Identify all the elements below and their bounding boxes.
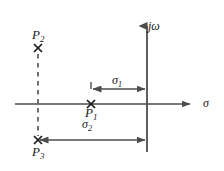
real-axis-label-text: σ: [203, 96, 209, 110]
s-plane-pole-diagram: jω σ P2 P1 P3 σ1 σ2: [0, 0, 224, 171]
sigma2-label: σ2: [82, 118, 92, 133]
sigma1-label-sub: 1: [118, 80, 122, 89]
pole-p2-label-sub: 2: [40, 34, 44, 44]
pole-p1-label-sub: 1: [93, 112, 97, 122]
pole-p2-label-main: P: [32, 27, 40, 42]
real-axis-label: σ: [203, 97, 209, 109]
sigma2-label-sub: 2: [88, 124, 92, 133]
pole-p3-label: P3: [32, 145, 44, 161]
pole-p3-label-sub: 3: [40, 151, 44, 161]
imaginary-axis-label: jω: [148, 20, 160, 32]
sigma1-label: σ1: [112, 74, 122, 89]
imaginary-axis-label-text: jω: [148, 19, 160, 33]
pole-p2-label: P2: [32, 28, 44, 44]
pole-p2-x-marker: [34, 44, 42, 52]
pole-p3-label-main: P: [32, 144, 40, 159]
